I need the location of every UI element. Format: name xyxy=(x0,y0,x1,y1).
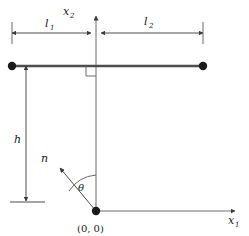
axis-label-x1: x xyxy=(228,214,235,227)
dimension-label-l1-subscript: 1 xyxy=(50,24,54,32)
dimension-label-l2: l xyxy=(144,15,148,28)
origin-label: (0, 0) xyxy=(77,223,104,234)
origin-node xyxy=(92,207,100,215)
angle-label-theta: θ xyxy=(78,182,84,193)
right-angle-icon xyxy=(86,66,96,76)
normal-vector-label-n: n xyxy=(41,152,48,165)
diagram-root: x 2 x 1 l 1 l 2 h n θ (0, 0) xyxy=(0,0,249,236)
dimension-label-h: h xyxy=(14,133,21,146)
axis-label-x1-subscript: 1 xyxy=(235,221,239,229)
dimension-label-l1: l xyxy=(45,17,49,30)
axis-label-x2-subscript: 2 xyxy=(69,12,75,20)
axis-label-x2: x xyxy=(63,5,70,18)
beam-node-right xyxy=(199,62,207,70)
beam-coordinate-diagram: x 2 x 1 l 1 l 2 h n θ (0, 0) xyxy=(0,0,249,236)
dimension-label-l2-subscript: 2 xyxy=(148,22,154,30)
beam-node-left xyxy=(8,62,16,70)
